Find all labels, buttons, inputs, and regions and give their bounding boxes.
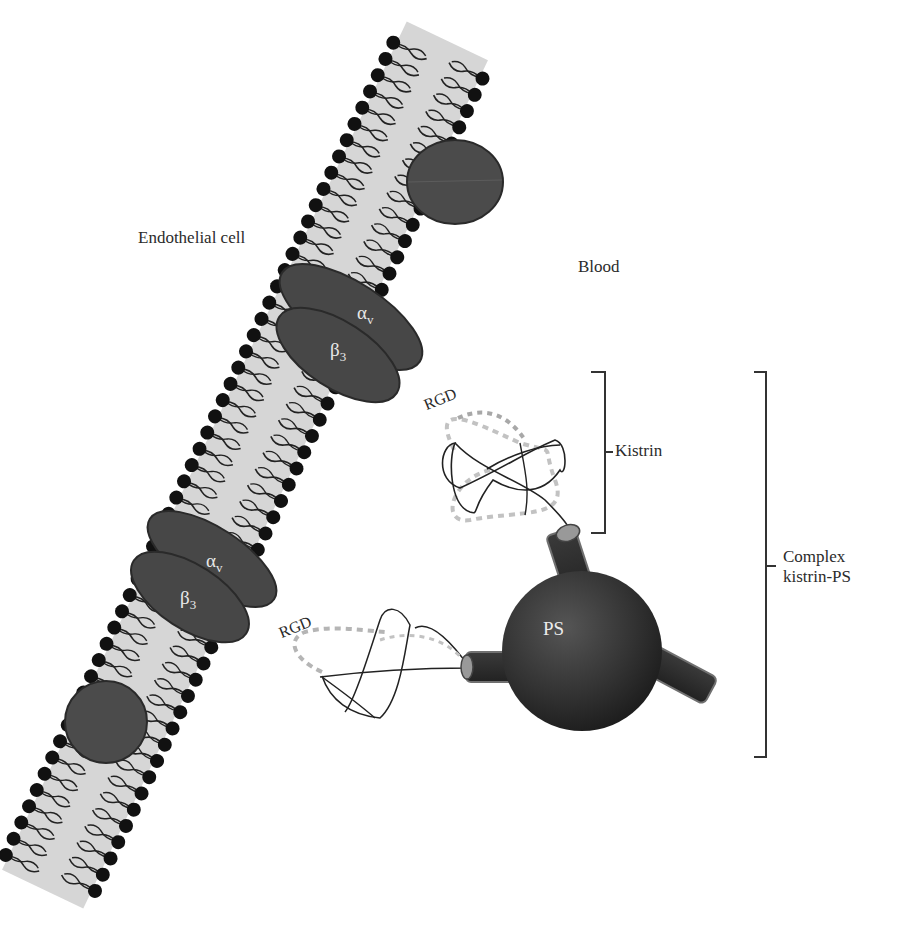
integrin-upper-alpha-label: αv [357, 302, 373, 328]
complex-bracket [754, 372, 776, 757]
integrin-lower-beta-label: β3 [180, 587, 196, 613]
complex-label-line2: kistrin-PS [783, 567, 851, 587]
kistrin-bracket [591, 372, 613, 533]
kistrin-peptide-upper [443, 413, 571, 530]
blood-label: Blood [578, 257, 620, 277]
complex-label-line1: Complex [783, 547, 845, 567]
integrin-upper-beta-label: β3 [330, 339, 346, 365]
kistrin-peptide-lower [294, 609, 470, 718]
diagram-canvas [0, 0, 922, 933]
ps-nanoparticle [461, 522, 718, 731]
kistrin-label: Kistrin [615, 441, 662, 461]
integrin-lower-alpha-label: αv [206, 550, 222, 576]
ps-label: PS [543, 618, 564, 640]
endothelial-cell-label: Endothelial cell [138, 228, 245, 248]
membrane-protein-bottom [65, 681, 147, 763]
